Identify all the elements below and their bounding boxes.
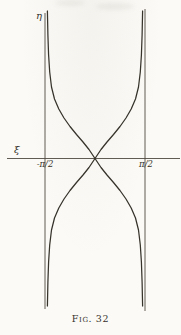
book-figure-page: η ξ -π/2 π/2 Fig. 32 — [0, 0, 181, 335]
eta-axis-label: η — [36, 11, 42, 21]
tick-label-minus-pi-over-2: -π/2 — [34, 160, 56, 169]
xi-axis-label: ξ — [14, 145, 20, 155]
figure-caption: Fig. 32 — [0, 313, 181, 324]
tick-label-plus-pi-over-2: π/2 — [136, 160, 156, 169]
